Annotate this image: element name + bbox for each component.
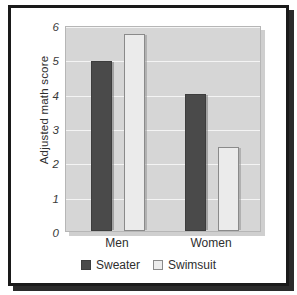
bar-chart: Adjusted math score 0123456 SweaterSwims… — [11, 8, 286, 283]
y-axis-tick-label: 0 — [53, 227, 59, 239]
figure-root: Adjusted math score 0123456 SweaterSwims… — [0, 0, 297, 295]
y-axis-tick-label: 3 — [53, 124, 59, 136]
gridline — [66, 27, 260, 28]
chart-legend: SweaterSwimsuit — [11, 258, 286, 272]
y-axis-tick-label: 2 — [53, 158, 59, 170]
x-axis-tick-label-men: Men — [105, 236, 128, 250]
y-axis-tick-label: 6 — [53, 21, 59, 33]
y-axis-tick-label: 4 — [53, 90, 59, 102]
figure-frame: Adjusted math score 0123456 SweaterSwims… — [8, 5, 289, 286]
legend-entry-swimsuit: Swimsuit — [153, 258, 216, 272]
bar-men-swimsuit — [124, 34, 145, 231]
x-axis-tick-label-women: Women — [190, 236, 231, 250]
legend-label: Swimsuit — [168, 258, 216, 272]
legend-swatch-icon-swimsuit — [153, 260, 163, 270]
plot-area: 0123456 — [65, 26, 261, 232]
y-axis-tick-label: 1 — [53, 193, 59, 205]
bar-men-sweater — [91, 61, 112, 231]
legend-entry-sweater: Sweater — [81, 258, 140, 272]
legend-label: Sweater — [96, 258, 140, 272]
y-axis-title: Adjusted math score — [38, 30, 50, 190]
legend-swatch-icon-sweater — [81, 260, 91, 270]
bar-women-swimsuit — [218, 147, 239, 231]
y-axis-tick-label: 5 — [53, 55, 59, 67]
bar-women-sweater — [185, 94, 206, 231]
